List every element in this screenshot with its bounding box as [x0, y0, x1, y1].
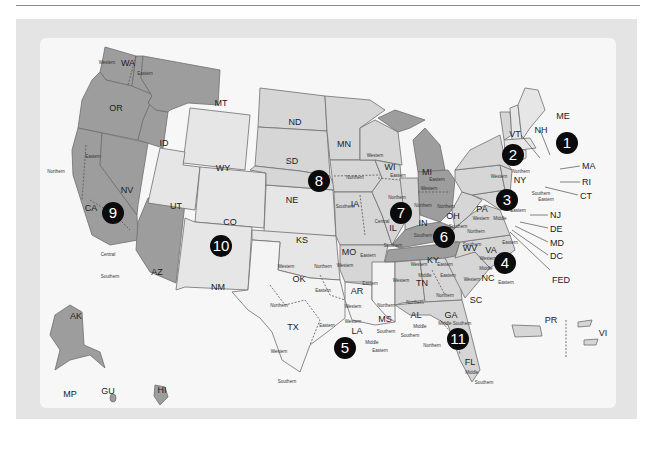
circuit-badge-1[interactable]: 1 — [556, 132, 578, 154]
label-ct: CT — [580, 191, 592, 201]
label-nj: NJ — [550, 210, 561, 220]
label-wa: WA — [121, 58, 135, 68]
district-ms-northern: Northern — [377, 303, 395, 308]
label-al: AL — [410, 310, 421, 320]
state-mt — [141, 56, 220, 112]
district-oh-southern: Southern — [449, 224, 467, 229]
circuit-badge-3[interactable]: 3 — [496, 189, 518, 211]
district-nc-eastern: Eastern — [498, 280, 514, 285]
district-al-middle: Middle — [413, 324, 426, 329]
circuit-badge-10[interactable]: 10 — [210, 235, 232, 257]
state-pr — [512, 325, 542, 337]
district-al-southern: Southern — [401, 333, 419, 338]
label-fed: FED — [552, 275, 570, 285]
district-ca-southern: Southern — [101, 274, 119, 279]
district-mi-western: Western — [421, 186, 438, 191]
district-mo-western: Western — [337, 263, 354, 268]
label-nv: NV — [121, 185, 134, 195]
district-la-western: Western — [345, 319, 362, 324]
district-tn-middle: Middle — [418, 273, 431, 278]
district-tx-eastern: Eastern — [319, 323, 335, 328]
label-dc: DC — [550, 251, 563, 261]
circuit-badge-7[interactable]: 7 — [390, 202, 412, 224]
circuit-badge-11[interactable]: 11 — [447, 328, 469, 350]
state-wy — [183, 108, 250, 170]
district-ms-southern: Southern — [377, 329, 395, 334]
district-in-northern: Northern — [414, 203, 432, 208]
district-ar-western: Western — [345, 304, 362, 309]
leader-de — [520, 222, 548, 228]
leader-md — [515, 226, 548, 242]
label-mi: MI — [422, 167, 432, 177]
district-tx-northern: Northern — [270, 303, 288, 308]
district-nc-middle: Middle — [479, 266, 492, 271]
label-ca: CA — [85, 203, 98, 213]
district-tn-western: Western — [393, 278, 410, 283]
label-ms: MS — [378, 314, 392, 324]
label-pa: PA — [476, 204, 487, 214]
district-va-eastern: Eastern — [502, 240, 518, 245]
district-il-northern: Northern — [388, 195, 406, 200]
district-fl-middle: Middle — [465, 370, 478, 375]
label-hi: HI — [158, 385, 167, 395]
district-tx-southern: Southern — [278, 379, 296, 384]
label-in: IN — [419, 218, 428, 228]
district-ia-southern: Southern — [336, 204, 354, 209]
district-tn-eastern: Eastern — [440, 273, 456, 278]
district-ny-eastern: Eastern — [538, 197, 554, 202]
label-nd: ND — [289, 117, 302, 127]
label-oh: OH — [446, 211, 460, 221]
label-ak: AK — [70, 311, 82, 321]
circuit-badge-9[interactable]: 9 — [102, 202, 124, 224]
district-ga-northern: Northern — [436, 293, 454, 298]
district-mi-eastern: Eastern — [429, 177, 445, 182]
label-wi: WI — [385, 162, 396, 172]
label-ok: OK — [292, 274, 305, 284]
district-ga-middle: Middle — [438, 321, 451, 326]
district-ca-northern: Northern — [47, 169, 65, 174]
district-wa-western: Western — [99, 60, 116, 65]
label-sc: SC — [470, 295, 483, 305]
label-mt: MT — [215, 98, 228, 108]
label-de: DE — [550, 224, 563, 234]
circuit-badge-2[interactable]: 2 — [502, 144, 524, 166]
district-pa-western: Western — [473, 216, 490, 221]
leader-fed — [510, 232, 550, 270]
district-ca-eastern: Eastern — [85, 154, 101, 159]
label-or: OR — [109, 103, 123, 113]
label-ar: AR — [351, 286, 364, 296]
district-ok-western: Western — [278, 264, 295, 269]
label-ks: KS — [296, 235, 308, 245]
label-ne: NE — [286, 195, 299, 205]
label-mp: MP — [63, 389, 77, 399]
label-gu: GU — [101, 386, 115, 396]
district-ny-southern: Southern — [532, 191, 550, 196]
circuit-badge-5[interactable]: 5 — [334, 337, 356, 359]
label-tx: TX — [287, 322, 299, 332]
district-la-eastern: Eastern — [372, 348, 388, 353]
label-vi: VI — [599, 328, 608, 338]
district-ok-northern: Northern — [314, 264, 332, 269]
label-me: ME — [556, 111, 570, 121]
district-wi-eastern: Eastern — [390, 173, 406, 178]
district-in-southern: Southern — [414, 233, 432, 238]
label-az: AZ — [151, 267, 163, 277]
label-ri: RI — [582, 177, 591, 187]
circuit-badge-6[interactable]: 6 — [433, 226, 455, 248]
circuit-badge-4[interactable]: 4 — [494, 252, 516, 274]
label-vt: VT — [509, 129, 521, 139]
label-co: CO — [223, 217, 237, 227]
circuit-badge-8[interactable]: 8 — [308, 170, 330, 192]
label-nm: NM — [211, 282, 225, 292]
district-ny-northern: Northern — [512, 169, 530, 174]
state-ks — [264, 185, 336, 236]
label-wy: WY — [216, 163, 231, 173]
district-ga-southern: Southern — [453, 321, 471, 326]
district-wv-northern: Northern — [467, 229, 485, 234]
label-ut: UT — [170, 201, 182, 211]
district-nc-western: Western — [464, 277, 481, 282]
label-nh: NH — [535, 125, 548, 135]
district-il-southern: Southern — [384, 243, 402, 248]
label-sd: SD — [286, 156, 299, 166]
label-la: LA — [351, 326, 362, 336]
